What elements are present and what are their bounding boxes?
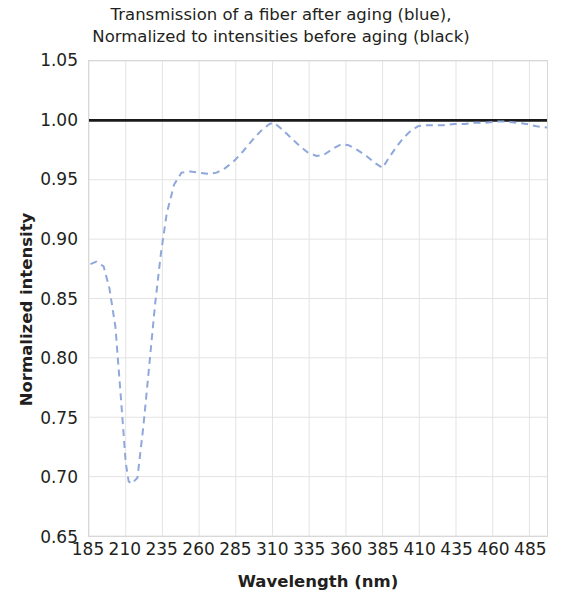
x-tick-label: 410 [403, 539, 435, 559]
x-tick-label: 235 [145, 539, 177, 559]
chart-figure: Transmission of a fiber after aging (blu… [0, 0, 562, 602]
x-tick-label: 210 [109, 539, 141, 559]
x-tick-label: 460 [477, 539, 509, 559]
x-axis-label: Wavelength (nm) [88, 572, 548, 591]
data-series-layer [89, 61, 547, 536]
chart-title-line-2: Normalized to intensities before aging (… [0, 26, 562, 48]
plot-area [88, 60, 548, 537]
x-tick-label: 335 [293, 539, 325, 559]
x-tick-label: 260 [182, 539, 214, 559]
x-tick-label: 435 [440, 539, 472, 559]
x-tick-label: 385 [367, 539, 399, 559]
y-axis-label-holder: Normalized intensity [0, 0, 30, 602]
series-line-1 [90, 122, 547, 484]
x-tick-label: 485 [514, 539, 546, 559]
x-tick-label: 310 [256, 539, 288, 559]
x-tick-label: 185 [72, 539, 104, 559]
y-axis-label: Normalized intensity [17, 180, 36, 440]
x-tick-label: 360 [330, 539, 362, 559]
x-tick-label: 285 [219, 539, 251, 559]
chart-title-line-1: Transmission of a fiber after aging (blu… [0, 4, 562, 26]
x-axis-ticks: 185210235260285310335360385410435460485 [0, 539, 562, 565]
chart-title: Transmission of a fiber after aging (blu… [0, 4, 562, 49]
